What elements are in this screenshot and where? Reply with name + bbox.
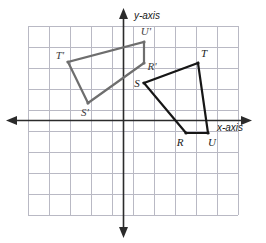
y-axis-bottom-arrow (119, 227, 128, 238)
vertex-label-r: R (176, 136, 184, 148)
vertex-point-u (206, 131, 209, 134)
vertex-point-s (142, 81, 145, 84)
vertex-point-s-prime (86, 101, 89, 104)
vertex-point-r-prime (142, 61, 145, 64)
x-axis-label: x-axis (216, 122, 243, 133)
vertex-label-r-prime: R' (146, 60, 157, 72)
vertex-point-t-prime (66, 60, 69, 63)
x-axis (6, 116, 252, 125)
coordinate-plane-svg: x-axis y-axis R S T U R' S' T' U' (0, 0, 266, 243)
vertex-label-u: U (208, 136, 217, 148)
coordinate-plane-figure: x-axis y-axis R S T U R' S' T' U' (0, 0, 266, 243)
x-axis-left-arrow (6, 116, 17, 125)
quadrilateral-rstu-prime-outline (68, 42, 144, 103)
vertex-point-r (184, 131, 187, 134)
vertex-label-s-prime: S' (81, 106, 90, 118)
vertex-label-t: T (201, 47, 208, 59)
y-axis-top-arrow (119, 8, 128, 19)
vertex-label-t-prime: T' (56, 49, 65, 61)
y-axis (119, 8, 128, 238)
vertex-label-u-prime: U' (141, 25, 152, 37)
vertex-point-t (196, 61, 199, 64)
vertex-point-u-prime (142, 40, 145, 43)
vertex-label-s: S (134, 77, 140, 89)
y-axis-label: y-axis (133, 10, 160, 21)
